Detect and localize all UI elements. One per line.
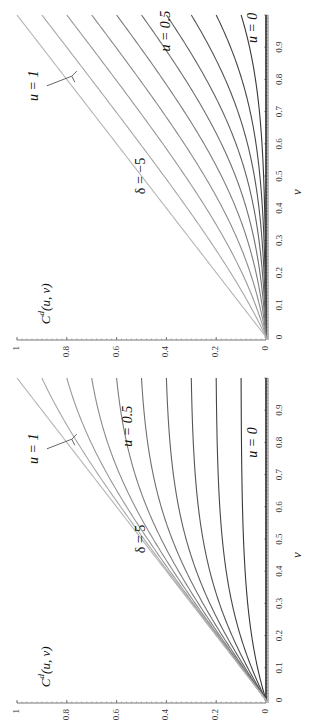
- v-axis-tick-label: 0.4: [274, 565, 284, 577]
- c-axis-tick-label: 0.6: [111, 346, 121, 358]
- c-axis-tick-label: 1: [11, 346, 21, 351]
- v-axis-tick-label: 0.8: [274, 73, 284, 85]
- c-axis-tick-label: 0.2: [210, 709, 220, 720]
- u0-label: u = 0: [245, 427, 260, 457]
- c-axis-tick-label: 0.8: [61, 709, 71, 721]
- curve-u-0.5: [142, 15, 267, 337]
- c-axis-tick-label: 0.4: [160, 709, 170, 721]
- v-axis-tick-label: 0.6: [274, 501, 284, 513]
- curve-u-0.9: [42, 15, 266, 337]
- v-axis-label: v: [289, 189, 304, 195]
- c-axis-tick-label: 0: [260, 346, 270, 351]
- v-axis-tick-label: 0.4: [274, 202, 284, 214]
- v-axis-tick-label: 0.2: [274, 630, 284, 641]
- v-axis-tick-label: 0.1: [274, 662, 284, 673]
- v-axis-tick-label: 0.2: [274, 267, 284, 278]
- panel-delta-5: 00.20.40.60.8100.10.20.30.40.50.60.70.80…: [11, 378, 304, 720]
- u1-label: u = 1: [26, 434, 41, 464]
- v-axis-tick-label: 0: [274, 697, 284, 702]
- v-axis-tick-label: 0.1: [274, 299, 284, 310]
- v-axis-tick-label: 0.9: [274, 404, 284, 416]
- delta-label: δ = −5: [133, 158, 148, 194]
- curve-u-0.2: [216, 15, 266, 337]
- v-axis-tick-label: 0.7: [274, 468, 284, 480]
- delta-label: δ = 5: [133, 525, 148, 554]
- v-axis-tick-label: 0.6: [274, 138, 284, 150]
- c-axis-tick-label: 0.8: [61, 346, 71, 358]
- v-axis-tick-label: 0: [274, 334, 284, 339]
- c-axis-tick-label: 0: [260, 709, 270, 714]
- u05-label: u = 0.5: [120, 406, 135, 447]
- u1-label: u = 1: [26, 71, 41, 101]
- copula-figure: 00.20.40.60.8100.10.20.30.40.50.60.70.80…: [0, 0, 318, 724]
- u0-label: u = 0: [245, 13, 260, 43]
- v-axis-tick-label: 0.3: [274, 597, 284, 609]
- c-axis-tick-label: 0.2: [210, 346, 220, 357]
- curve-u-0.4: [166, 378, 266, 700]
- c-axis-tick-label: 0.6: [111, 709, 121, 721]
- v-axis-tick-label: 0.7: [274, 105, 284, 117]
- v-axis-tick-label: 0.5: [274, 533, 284, 545]
- panel-delta-neg5: 00.20.40.60.8100.10.20.30.40.50.60.70.80…: [11, 11, 304, 358]
- curve-u-0.4: [166, 15, 266, 337]
- v-axis-tick-label: 0.9: [274, 41, 284, 53]
- c-axis-label: Cd(u, v): [36, 284, 53, 325]
- curve-u-0.5: [142, 378, 267, 700]
- c-axis-tick-label: 1: [11, 709, 21, 714]
- c-axis-tick-label: 0.4: [160, 346, 170, 358]
- u05-label: u = 0.5: [158, 11, 173, 52]
- v-axis-label: v: [289, 552, 304, 558]
- c-axis-label: Cd(u, v): [36, 647, 53, 688]
- v-axis-tick-label: 0.8: [274, 436, 284, 448]
- v-axis-tick-label: 0.3: [274, 234, 284, 246]
- curve-u-0.1: [241, 378, 266, 700]
- v-axis-tick-label: 0.5: [274, 170, 284, 182]
- curve-u-0.8: [67, 378, 266, 700]
